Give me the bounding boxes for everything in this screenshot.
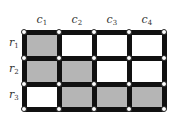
column-label-c2: c2 [72, 14, 83, 27]
grid-node [161, 106, 167, 112]
grid-cell-r3-c2 [59, 84, 94, 109]
vertical-edge [162, 32, 167, 109]
grid-node [161, 81, 167, 87]
vertical-edge [92, 32, 97, 109]
row-label-r1: r1 [9, 37, 19, 50]
grid-node [21, 29, 27, 35]
grid-cell-r2-c4 [129, 58, 164, 84]
grid-node [91, 106, 97, 112]
grid-node [126, 106, 132, 112]
vertical-edge [22, 32, 27, 109]
row-label-r3: r3 [9, 89, 19, 102]
grid-node [21, 55, 27, 61]
grid-cell-r3-c4 [129, 84, 164, 109]
grid-node [56, 81, 62, 87]
grid-node [91, 29, 97, 35]
grid-cell-r2-c2 [59, 58, 94, 84]
column-label-c3: c3 [107, 14, 118, 27]
grid-node [56, 29, 62, 35]
grid-cell-r1-c1 [24, 32, 59, 58]
grid-node [21, 106, 27, 112]
grid-node [126, 81, 132, 87]
grid-cell-r1-c3 [94, 32, 129, 58]
row-label-r2: r2 [9, 63, 19, 76]
grid-diagram: c1c2c3c4r1r2r3 [0, 0, 177, 124]
vertical-edge [57, 32, 62, 109]
column-label-c1: c1 [37, 14, 48, 27]
grid-node [91, 55, 97, 61]
grid-node [56, 55, 62, 61]
vertical-edge [127, 32, 132, 109]
grid-node [161, 29, 167, 35]
grid-node [21, 81, 27, 87]
grid-node [126, 29, 132, 35]
grid-cell-r3-c3 [94, 84, 129, 109]
grid-cell-r2-c3 [94, 58, 129, 84]
grid-node [126, 55, 132, 61]
grid-cell-r2-c1 [24, 58, 59, 84]
grid-cell-r3-c1 [24, 84, 59, 109]
grid-node [56, 106, 62, 112]
grid-cell-r1-c2 [59, 32, 94, 58]
grid-node [91, 81, 97, 87]
column-label-c4: c4 [142, 14, 153, 27]
grid-cell-r1-c4 [129, 32, 164, 58]
grid-node [161, 55, 167, 61]
